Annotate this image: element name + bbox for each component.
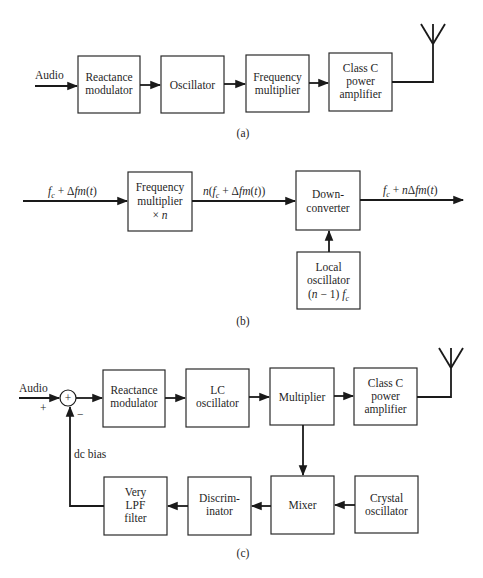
svg-text:Frequency: Frequency (136, 181, 185, 194)
block-reactance-modulator-c: Reactance modulator (103, 370, 165, 427)
svg-text:Frequency: Frequency (253, 71, 302, 84)
audio-input-label: Audio (35, 69, 64, 81)
dc-bias-label: dc bias (74, 448, 107, 460)
output-signal-label: fc + nΔfm(t) (383, 184, 438, 199)
svg-text:Crystal: Crystal (370, 492, 403, 505)
svg-text:Down-: Down- (312, 188, 344, 200)
svg-text:Reactance: Reactance (85, 71, 132, 83)
antenna-icon (417, 348, 463, 397)
svg-text:Oscillator: Oscillator (170, 79, 216, 91)
block-class-c-amplifier-c: Class C power amplifier (354, 368, 417, 425)
caption-b: (b) (236, 315, 250, 328)
svg-text:Very: Very (125, 486, 147, 499)
svg-text:multiplier: multiplier (137, 195, 183, 208)
svg-text:Local: Local (315, 261, 341, 273)
plus-sign: + (40, 402, 47, 414)
block-multiplier: Multiplier (270, 368, 334, 425)
block-crystal-oscillator: Crystal oscillator (355, 476, 418, 533)
block-reactance-modulator: Reactance modulator (78, 56, 140, 113)
block-down-converter: Down- converter (296, 171, 360, 230)
svg-text:Mixer: Mixer (288, 499, 316, 511)
block-frequency-multiplier-n: Frequency multiplier × n (128, 172, 192, 231)
block-lc-oscillator: LC oscillator (186, 369, 249, 427)
svg-text:Multiplier: Multiplier (279, 391, 326, 404)
antenna-icon (392, 24, 445, 82)
svg-text:filter: filter (124, 512, 147, 524)
svg-text:Reactance: Reactance (110, 384, 157, 396)
svg-text:oscillator: oscillator (196, 397, 239, 409)
diagram-a: Audio Reactance modulator Oscillator Fre… (35, 24, 445, 140)
diagram-c: Audio + + − Reactance modulator LC oscil… (19, 348, 463, 560)
svg-text:amplifier: amplifier (339, 88, 381, 101)
svg-text:LPF: LPF (126, 499, 146, 511)
block-mixer: Mixer (271, 476, 334, 534)
summing-junction: + (60, 390, 76, 406)
svg-text:× n: × n (152, 209, 167, 221)
svg-text:LC: LC (210, 384, 225, 396)
caption-c: (c) (237, 547, 250, 560)
block-local-oscillator: Local oscillator (n − 1) fc (297, 252, 360, 309)
svg-text:oscillator: oscillator (307, 274, 350, 286)
minus-sign: − (77, 408, 84, 420)
svg-text:power: power (371, 390, 400, 403)
svg-text:amplifier: amplifier (364, 403, 406, 416)
svg-text:inator: inator (206, 505, 233, 517)
fm-transmitter-diagrams: Audio Reactance modulator Oscillator Fre… (0, 0, 483, 578)
svg-text:power: power (346, 75, 375, 88)
svg-text:oscillator: oscillator (365, 505, 408, 517)
svg-text:multiplier: multiplier (255, 84, 301, 97)
block-class-c-amplifier: Class C power amplifier (329, 53, 392, 111)
diagram-b: fc + Δfm(t) Frequency multiplier × n n(f… (23, 171, 463, 328)
svg-text:Class C: Class C (368, 377, 404, 389)
svg-text:modulator: modulator (110, 397, 157, 409)
svg-text:modulator: modulator (85, 84, 132, 96)
block-discriminator: Discrim- inator (188, 477, 251, 535)
block-very-lpf-filter: Very LPF filter (104, 477, 167, 535)
audio-input-label-c: Audio (19, 382, 48, 394)
caption-a: (a) (237, 127, 250, 140)
block-oscillator: Oscillator (161, 56, 224, 113)
svg-text:Discrim-: Discrim- (199, 492, 240, 504)
block-frequency-multiplier: Frequency multiplier (246, 55, 309, 112)
svg-text:+: + (65, 392, 72, 404)
input-signal-label: fc + Δfm(t) (48, 185, 97, 200)
svg-text:Class C: Class C (343, 62, 379, 74)
svg-text:converter: converter (306, 202, 350, 214)
multiplied-signal-label: n(fc + Δfm(t)) (203, 185, 265, 200)
